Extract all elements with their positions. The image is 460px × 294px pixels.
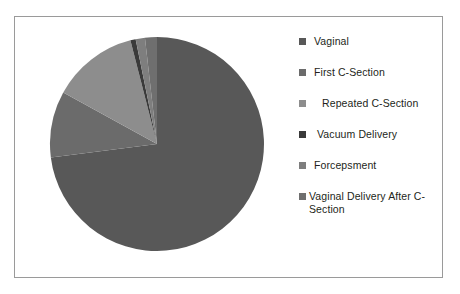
pie-svg	[49, 36, 265, 252]
legend-swatch-icon	[299, 69, 306, 76]
chart-frame: Vaginal First C-Section Repeated C-Secti…	[14, 16, 443, 278]
legend-item-vaginal-delivery-after-c-section[interactable]: Vaginal Delivery After C-Section	[299, 190, 441, 216]
legend-swatch-icon	[299, 162, 306, 169]
legend-swatch-icon	[299, 100, 306, 107]
legend-item-label: Vaginal Delivery After C-Section	[309, 190, 441, 216]
legend-swatch-icon	[299, 131, 306, 138]
legend-item-label: Repeated C-Section	[319, 97, 418, 110]
legend-item-label: Vaginal	[314, 35, 349, 48]
legend-item-label: Forcepsment	[314, 159, 376, 172]
legend-item-repeated-c-section[interactable]: Repeated C-Section	[299, 97, 441, 110]
legend-item-label: Vacuum Delivery	[314, 128, 397, 141]
legend-swatch-icon	[299, 38, 306, 45]
legend-item-vacuum-delivery[interactable]: Vacuum Delivery	[299, 128, 441, 141]
legend-item-vaginal[interactable]: Vaginal	[299, 35, 441, 48]
legend-item-first-c-section[interactable]: First C-Section	[299, 66, 441, 79]
plot-area: Vaginal First C-Section Repeated C-Secti…	[15, 17, 442, 277]
chart-legend: Vaginal First C-Section Repeated C-Secti…	[299, 35, 441, 234]
pie-chart	[49, 36, 265, 252]
legend-swatch-icon	[299, 193, 306, 200]
legend-item-label: First C-Section	[314, 66, 385, 79]
legend-item-forceps-delivery[interactable]: Forcepsment	[299, 159, 441, 172]
pie-slice-group	[50, 37, 264, 251]
